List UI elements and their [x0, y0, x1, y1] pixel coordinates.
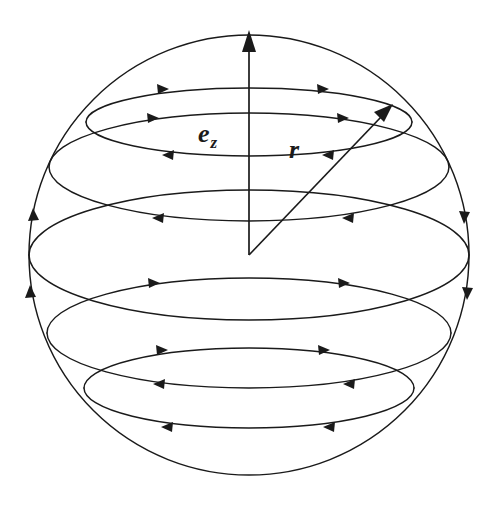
latitude-circle-5-back-arc: [84, 348, 414, 388]
latitude-circle-2-back-arrow-left: [147, 113, 159, 123]
left-limb-arrow-lower: [25, 285, 36, 298]
latitude-circle-4-back-arrow-right: [338, 278, 350, 288]
r-vector-arrowhead: [374, 104, 393, 122]
r-vector-shaft: [249, 117, 381, 255]
right-limb-arrow-upper: [459, 211, 470, 224]
latitude-circle-4-front-arc: [47, 333, 451, 388]
right-limb-arrow-lower: [462, 287, 473, 300]
e-z-label-sub: z: [210, 133, 218, 152]
r-vector: [249, 104, 393, 255]
left-limb-arrow-upper: [28, 208, 39, 221]
e-z-label-main: e: [198, 119, 210, 148]
e-z-label: ez: [198, 119, 218, 152]
latitude-circle-4-back-arrow-left: [148, 278, 160, 288]
latitude-circle-equator-front-arc: [29, 255, 469, 320]
e-z-vector-arrowhead: [242, 30, 256, 52]
figure-root: ez r: [0, 0, 493, 506]
sphere-diagram: ez r: [0, 0, 493, 506]
latitude-circle-2-back-arrow-right: [337, 113, 349, 123]
r-label: r: [289, 135, 300, 164]
latitude-circle-4-front-arrow-left: [153, 379, 165, 389]
latitude-circle-5-front-arc: [84, 388, 414, 428]
latitude-circle-4: [47, 278, 451, 389]
